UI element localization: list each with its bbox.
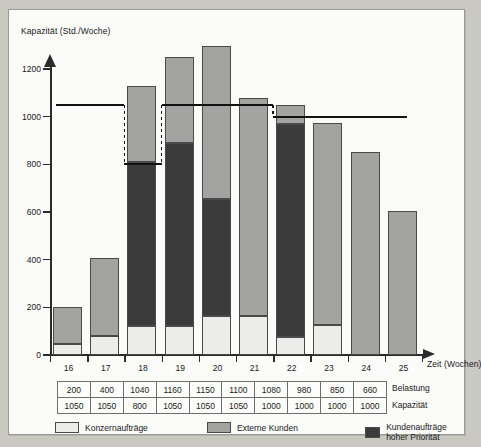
table-cell: 660 [354,382,387,398]
capacity-line-segment [124,163,161,165]
table-row: 20040010401160115011001080980850660 [58,382,387,398]
legend-swatch [55,422,79,433]
x-tick-label: 22 [273,363,310,373]
legend-label: Kundenaufträge hoher Priorität [386,422,455,442]
bar-week-22 [276,62,305,355]
legend-item: Kundenaufträge hoher Priorität [365,422,456,442]
bar-segment-extern [388,211,417,355]
x-tick [348,355,349,362]
bar-week-19 [165,62,194,355]
x-tick [124,355,125,362]
legend-item: Konzernaufträge [55,422,148,433]
bar-week-21 [239,62,268,355]
table-cell: 1050 [90,398,123,414]
bar-week-20 [202,62,231,355]
bar-segment-konzern [90,336,119,355]
capacity-line-step [124,105,126,165]
chart-legend: KonzernaufträgeExterne KundenKundenauftr… [55,422,455,438]
x-tick-label: 19 [162,363,199,373]
table-cell: 1000 [321,398,354,414]
bar-segment-konzern [127,326,156,355]
bar-week-16 [53,62,82,355]
bar-segment-extern [90,258,119,335]
table-cell: 1050 [222,398,255,414]
y-tick-label: 200 [13,302,41,312]
capacity-line-segment [273,116,407,118]
table-row-label-belastung: Belastung [392,383,430,393]
table-cell: 1050 [58,398,91,414]
table-cell: 980 [288,382,321,398]
y-tick-label: 800 [13,159,41,169]
y-tick-label: 1000 [13,112,41,122]
legend-swatch [207,422,231,433]
table-cell: 1000 [255,398,288,414]
x-tick [50,355,51,362]
bar-segment-konzern [202,316,231,355]
chart-card: Kapazität (Std./Woche) Zeit (Wochen) 020… [8,9,465,435]
table-cell: 1100 [222,382,255,398]
table-cell: 1150 [189,382,222,398]
x-tick-label: 23 [310,363,347,373]
bar-week-17 [90,62,119,355]
x-axis-arrow-icon [423,349,435,359]
x-tick-label: 20 [199,363,236,373]
chart-screenshot: Kapazität (Std./Woche) Zeit (Wochen) 020… [0,0,481,447]
x-axis-title: Zeit (Wochen) [427,359,481,369]
bar-segment-konzern [239,316,268,355]
capacity-line-step [272,105,274,117]
bar-segment-prio [202,199,231,316]
table-cell: 1000 [288,398,321,414]
bar-segment-prio [276,124,305,337]
x-tick [199,355,200,362]
bar-week-25 [388,62,417,355]
y-axis-title: Kapazität (Std./Woche) [21,26,110,36]
x-tick [236,355,237,362]
legend-swatch [365,427,380,438]
table-cell: 1050 [156,398,189,414]
bar-segment-prio [127,162,156,326]
x-tick-label: 17 [87,363,124,373]
bar-segment-extern [53,307,82,344]
bar-segment-extern [313,123,342,326]
y-tick-label: 0 [13,350,41,360]
legend-label: Externe Kunden [237,423,298,433]
table-cell: 400 [90,382,123,398]
bar-segment-prio [165,143,194,327]
bar-segment-konzern [53,344,82,355]
x-tick [162,355,163,362]
bar-segment-konzern [276,337,305,355]
legend-label: Konzernaufträge [85,423,148,433]
bar-segment-extern [127,86,156,162]
x-tick-label: 18 [124,363,161,373]
x-tick-label: 24 [348,363,385,373]
capacity-line-segment [56,104,124,106]
x-tick-label: 21 [236,363,273,373]
x-tick-label: 25 [385,363,422,373]
x-tick-label: 16 [50,363,87,373]
y-tick-label: 600 [13,207,41,217]
bar-week-18 [127,62,156,355]
x-tick [422,355,423,362]
table-cell: 1160 [156,382,189,398]
bar-segment-extern [165,57,194,143]
x-tick [310,355,311,362]
y-tick-label: 400 [13,255,41,265]
bar-segment-extern [239,98,268,316]
x-tick [385,355,386,362]
legend-item: Externe Kunden [207,422,298,433]
plot-area [50,62,424,355]
table-row: 105010508001050105010501000100010001000 [58,398,387,414]
table-cell: 800 [123,398,156,414]
x-tick [273,355,274,362]
capacity-line-step [161,105,163,165]
bar-segment-konzern [165,326,194,355]
x-tick [87,355,88,362]
bar-week-24 [351,62,380,355]
table-cell: 850 [321,382,354,398]
table-cell: 1050 [189,398,222,414]
bar-segment-extern [202,46,231,199]
table-cell: 1080 [255,382,288,398]
table-cell: 200 [58,382,91,398]
table-cell: 1000 [354,398,387,414]
bar-segment-extern [276,105,305,124]
